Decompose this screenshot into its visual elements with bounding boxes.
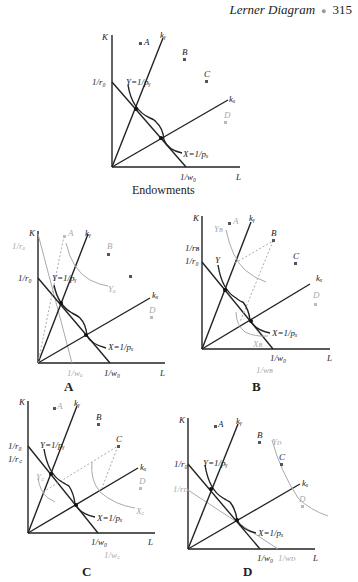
point-d [150, 316, 153, 319]
w0-label: 1/w₀ [104, 368, 120, 378]
r0-label: 1/r₀ [92, 77, 106, 87]
panel-b: K Yʙ A kᵧ B 1/rʙ 1/r₀ Y C kₓ D X=1/pₓ Xʙ… [185, 213, 332, 394]
point-a [63, 235, 66, 238]
point-b [272, 239, 275, 242]
isocost-line-d [188, 490, 278, 549]
d-label: D [298, 494, 306, 504]
y-tangency [223, 288, 227, 292]
yb-label: Yʙ [214, 224, 223, 234]
l-label: L [326, 353, 332, 363]
point-a [53, 407, 56, 410]
r0-label: 1/r₀ [174, 459, 188, 469]
l-label: L [235, 172, 241, 182]
y-isoquant-label: Y=1/pᵧ [203, 458, 228, 468]
y-tangency [49, 472, 53, 476]
point-c [280, 463, 283, 466]
ra-label: 1/rₐ [12, 241, 26, 251]
isocost-line [38, 278, 110, 363]
kx-ray [188, 484, 300, 549]
yc-label: Y꜀ [36, 472, 45, 482]
panel-d: K A kᵧ B Yᴅ C 1/r₀ Y=1/pᵧ 1/rᴅ kₓ D X=1/… [173, 415, 328, 579]
ky-label: kᵧ [160, 30, 166, 40]
panel-a: K 1/rₐ 1/r₀ A kᵧ B Y=1/pᵧ Yₐ kₓ D X=1/pₓ… [12, 228, 165, 394]
y-isoquant-label: Y [215, 255, 221, 265]
ky-ray [28, 406, 77, 533]
a-label: A [143, 37, 150, 47]
caption-c: C [82, 564, 91, 579]
b-label: B [271, 228, 277, 238]
endowment-ray-a [38, 236, 64, 363]
ky-label: kᵧ [85, 228, 91, 238]
a-label: A [217, 419, 224, 429]
ky-ray [188, 424, 238, 549]
x-tangency [235, 518, 239, 522]
xb-label: Xʙ [252, 339, 262, 349]
x-tangency [249, 319, 253, 323]
d-label: D [223, 110, 231, 120]
x-isoquant-label: X=1/pₓ [271, 328, 298, 338]
kx-label: kₓ [229, 94, 236, 104]
x-tangency [74, 503, 78, 507]
y-tangency [134, 107, 138, 111]
x-isoquant-label: X=1/pₓ [96, 513, 123, 523]
rb-label: 1/rʙ [185, 243, 200, 253]
ky-ray [202, 222, 251, 349]
x-tangency [159, 136, 163, 140]
c-label: C [279, 452, 286, 462]
point-a [214, 425, 217, 428]
r0-label: 1/r₀ [18, 273, 32, 283]
panel-c: K A kᵧ B 1/r₀ 1/r꜀ Y=1/pᵧ C Y꜀ kₓ D X꜀ X… [8, 397, 155, 579]
caption-d: D [243, 564, 252, 579]
x-isoquant-label: X=1/pₓ [257, 528, 284, 538]
isocost-line [28, 446, 98, 533]
l-label: L [312, 553, 318, 563]
y-isoquant-label: Y=1/pᵧ [126, 77, 151, 87]
d-label: D [138, 476, 146, 486]
l-label: L [147, 537, 153, 547]
point-c [294, 262, 297, 265]
caption-endowments: Endowments [132, 183, 195, 197]
kx-label: kₓ [152, 290, 159, 300]
point-c [117, 445, 120, 448]
lerner-diagram-figure: K L 1/r₀ 1/w₀ kᵧ kₓ Y=1/pᵧ X=1/pₓ A B C … [0, 0, 358, 582]
ky-label: kᵧ [236, 416, 242, 426]
yd-label: Yᴅ [272, 437, 282, 447]
b-label: B [257, 430, 263, 440]
point-c [205, 80, 208, 83]
kx-ray [112, 100, 228, 167]
b-label: B [182, 47, 188, 57]
w0-label: 1/w₀ [91, 537, 107, 547]
k-label: K [178, 415, 186, 425]
caption-a: A [64, 379, 74, 394]
ky-ray [112, 38, 163, 167]
yb-isoquant [226, 230, 266, 282]
x-isoquant-label: X=1/pₓ [182, 149, 209, 159]
b-label: B [107, 241, 113, 251]
a-label: A [56, 401, 63, 411]
y-tangency [59, 301, 63, 305]
kx-label: kₓ [140, 462, 147, 472]
w0-label: 1/w₀ [180, 172, 196, 182]
r0-label: 1/r₀ [8, 441, 22, 451]
point-a [139, 42, 142, 45]
r0-label: 1/r₀ [185, 256, 199, 266]
caption-b: B [252, 379, 261, 394]
k-label: K [101, 32, 109, 42]
ky-label: kᵧ [249, 213, 255, 223]
wc-label: 1/w꜀ [104, 550, 121, 560]
kx-label: kₓ [316, 273, 323, 283]
isocost-line [188, 464, 260, 549]
point-b [97, 423, 100, 426]
k-label: K [192, 213, 200, 223]
dash-b-ky [235, 241, 273, 263]
y-isoquant-label: Y=1/pᵧ [40, 440, 65, 450]
point-b [258, 441, 261, 444]
xc-label: X꜀ [135, 506, 145, 516]
w0-label: 1/w₀ [257, 553, 273, 563]
rc-label: 1/r꜀ [8, 454, 23, 464]
point-a [228, 222, 231, 225]
wb-label: 1/wʙ [256, 365, 273, 375]
point-d [314, 303, 317, 306]
isocost-line [112, 82, 186, 167]
point-d [301, 505, 304, 508]
